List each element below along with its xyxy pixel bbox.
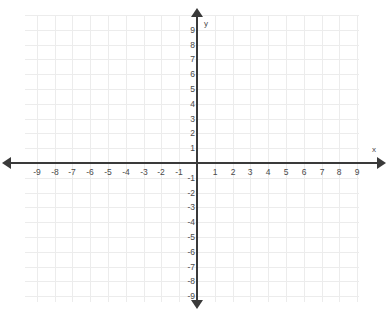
y-tick-label: -9 — [181, 292, 195, 301]
x-tick-label: 7 — [314, 168, 330, 177]
y-tick-label: -7 — [181, 263, 195, 272]
y-tick-label: 6 — [181, 70, 195, 79]
x-tick-label: 6 — [296, 168, 312, 177]
x-tick-label: 9 — [349, 168, 365, 177]
y-tick-label: 7 — [181, 55, 195, 64]
y-tick-label: -4 — [181, 218, 195, 227]
x-tick-label: -2 — [153, 168, 169, 177]
y-tick-label: -6 — [181, 248, 195, 257]
y-tick-label: 1 — [181, 144, 195, 153]
x-axis-left-arrow-icon — [2, 157, 11, 169]
y-tick-label: -5 — [181, 233, 195, 242]
y-tick-label: -3 — [181, 203, 195, 212]
x-tick-label: -3 — [136, 168, 152, 177]
x-tick-label: 2 — [225, 168, 241, 177]
x-tick-label: 5 — [278, 168, 294, 177]
coordinate-plane: x y -9-8-7-6-5-4-3-2-1123456789987654321… — [0, 0, 390, 318]
x-axis-label: x — [372, 146, 376, 154]
y-tick-label: 9 — [181, 26, 195, 35]
x-tick-label: -5 — [100, 168, 116, 177]
y-axis-line — [196, 16, 198, 307]
x-tick-label: 3 — [242, 168, 258, 177]
y-tick-label: 5 — [181, 85, 195, 94]
y-tick-label: -8 — [181, 277, 195, 286]
x-axis-right-arrow-icon — [377, 157, 386, 169]
x-tick-label: -7 — [64, 168, 80, 177]
y-axis-down-arrow-icon — [191, 300, 203, 309]
y-tick-label: 2 — [181, 129, 195, 138]
x-tick-label: -8 — [47, 168, 63, 177]
y-tick-label: 3 — [181, 115, 195, 124]
x-tick-label: 8 — [331, 168, 347, 177]
y-axis-up-arrow-icon — [191, 8, 203, 17]
x-axis-line — [10, 162, 378, 164]
y-tick-label: 4 — [181, 100, 195, 109]
x-tick-label: -9 — [29, 168, 45, 177]
y-tick-label: -2 — [181, 189, 195, 198]
x-tick-label: -6 — [82, 168, 98, 177]
x-tick-label: -4 — [118, 168, 134, 177]
x-tick-label: 1 — [207, 168, 223, 177]
y-tick-label: -1 — [181, 174, 195, 183]
x-tick-label: 4 — [260, 168, 276, 177]
y-axis-label: y — [204, 20, 208, 28]
y-tick-label: 8 — [181, 41, 195, 50]
